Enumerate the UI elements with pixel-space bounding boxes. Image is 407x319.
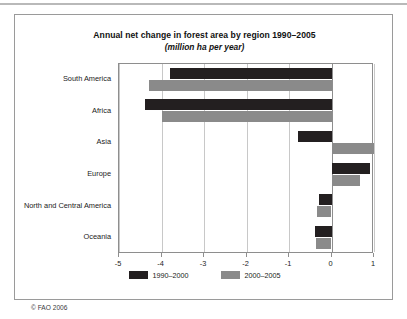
x-tick-mark (118, 253, 119, 257)
chart-subtitle: (million ha per year) (15, 41, 394, 53)
category-label: Europe (0, 169, 111, 178)
x-tick-mark (373, 253, 374, 257)
chart-card: Annual net change in forest area by regi… (14, 14, 393, 300)
category-label: Africa (0, 106, 111, 115)
x-tick-label: 1 (361, 259, 385, 268)
category-label: Oceania (0, 232, 111, 241)
bar-series1 (315, 226, 332, 237)
top-divider (0, 3, 407, 5)
bar-series2 (162, 111, 332, 122)
x-tick-mark (246, 253, 247, 257)
x-tick-label: -4 (149, 259, 173, 268)
legend-item[interactable]: 2000–2005 (221, 270, 281, 280)
legend-swatch (221, 271, 240, 279)
x-tick-mark (161, 253, 162, 257)
x-tick-label: -3 (191, 259, 215, 268)
legend-label: 2000–2005 (245, 271, 281, 280)
bar-series2 (149, 80, 332, 91)
bar-series1 (332, 163, 370, 174)
bar-series2 (316, 238, 331, 249)
bar-series1 (298, 131, 332, 142)
bar-row (119, 191, 372, 223)
chart-figure: Annual net change in forest area by regi… (0, 0, 407, 319)
bar-row (119, 159, 372, 191)
bar-series1 (319, 194, 332, 205)
plot-area (118, 63, 373, 253)
legend-swatch (129, 271, 148, 279)
category-label: North and Central America (0, 201, 111, 210)
x-tick-label: -2 (234, 259, 258, 268)
bar-series1 (145, 99, 332, 110)
chart-legend: 1990–20002000–2005 (15, 270, 394, 280)
category-label: South America (0, 74, 111, 83)
x-tick-mark (288, 253, 289, 257)
title-block: Annual net change in forest area by regi… (15, 29, 394, 53)
credit-text: © FAO 2006 (31, 304, 67, 311)
bar-series2 (332, 143, 375, 154)
bar-series2 (332, 175, 360, 186)
bar-series2 (317, 206, 331, 217)
category-label: Asia (0, 137, 111, 146)
bar-series1 (170, 68, 332, 79)
legend-label: 1990–2000 (153, 271, 189, 280)
x-tick-label: -5 (106, 259, 130, 268)
x-tick-mark (331, 253, 332, 257)
x-tick-label: 0 (319, 259, 343, 268)
x-tick-label: -1 (276, 259, 300, 268)
bar-row (119, 64, 372, 96)
bar-row (119, 96, 372, 128)
bar-row (119, 127, 372, 159)
legend-item[interactable]: 1990–2000 (129, 270, 189, 280)
bar-rows (119, 64, 372, 252)
x-tick-mark (203, 253, 204, 257)
chart-title: Annual net change in forest area by regi… (15, 29, 394, 41)
bar-row (119, 222, 372, 254)
gridline (374, 64, 375, 252)
